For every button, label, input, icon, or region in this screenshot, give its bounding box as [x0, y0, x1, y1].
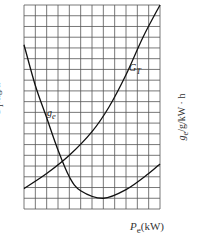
x-axis-label: Pe(kW)	[130, 220, 164, 235]
x-symbol: P	[130, 220, 137, 232]
y-axis-right-label: ge/g/kW · h	[176, 94, 190, 141]
y-left-unit: /kg/h	[0, 83, 2, 104]
y-right-unit: /g/kW · h	[176, 94, 187, 132]
chart-plot	[0, 0, 197, 239]
grid	[24, 5, 160, 209]
curve-label-gt: GT	[129, 62, 141, 76]
y-left-symbol: G	[0, 108, 2, 115]
y-axis-left-label: GT/kg/h	[0, 83, 5, 116]
y-left-subscript: T	[0, 103, 5, 108]
y-right-symbol: g	[176, 135, 187, 140]
y-right-subscript: e	[181, 132, 190, 136]
x-unit: (kW)	[141, 220, 164, 232]
curve-label-ge: ge	[47, 107, 56, 121]
